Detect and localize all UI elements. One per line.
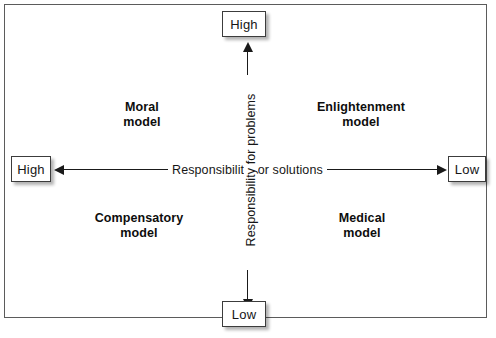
quadrant-label-compensatory-model: Compensatory model <box>63 211 215 241</box>
quadrant-enlightenment-line1: Enlightenment <box>289 100 433 115</box>
diagram-canvas: Responsibility for solutions Responsibil… <box>0 0 496 338</box>
horizontal-axis-right-segment <box>325 169 438 170</box>
vertical-axis-low-label: Low <box>232 307 256 322</box>
horizontal-axis-left-segment <box>63 169 171 170</box>
vertical-axis-high-label: High <box>230 17 258 32</box>
vertical-axis-label: Responsibility for problems <box>244 82 258 258</box>
horizontal-axis-left-arrowhead <box>54 165 64 175</box>
vertical-axis-high-box: High <box>222 11 266 37</box>
quadrant-enlightenment-line2: model <box>289 115 433 130</box>
quadrant-label-moral-model: Moral model <box>87 100 197 130</box>
quadrant-moral-line1: Moral <box>87 100 197 115</box>
quadrant-moral-line2: model <box>87 115 197 130</box>
vertical-axis-lower-segment <box>247 270 248 300</box>
horizontal-axis-high-box: High <box>11 156 51 182</box>
vertical-axis-upper-segment <box>247 51 248 75</box>
vertical-axis-up-arrowhead <box>243 42 253 52</box>
horizontal-axis-right-arrowhead <box>437 165 447 175</box>
quadrant-compensatory-line2: model <box>63 226 215 241</box>
quadrant-medical-line1: Medical <box>305 211 419 226</box>
quadrant-label-enlightenment-model: Enlightenment model <box>289 100 433 130</box>
quadrant-compensatory-line1: Compensatory <box>63 211 215 226</box>
quadrant-medical-line2: model <box>305 226 419 241</box>
horizontal-axis-high-label: High <box>17 162 45 177</box>
horizontal-axis-low-box: Low <box>448 156 486 182</box>
vertical-axis-low-box: Low <box>222 301 266 327</box>
horizontal-axis-low-label: Low <box>455 162 479 177</box>
quadrant-label-medical-model: Medical model <box>305 211 419 241</box>
diagram-frame: Responsibility for solutions Responsibil… <box>4 4 487 318</box>
